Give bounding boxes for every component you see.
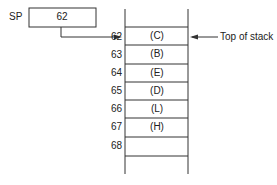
addr-68: 68 <box>98 140 122 152</box>
addr-62: 62 <box>98 31 122 43</box>
addr-66: 66 <box>98 103 122 115</box>
stack-diagram: SP 62 62 63 64 65 66 67 68 (C) (B) (E) (… <box>0 0 277 185</box>
cell-64: (E) <box>126 67 188 79</box>
addr-63: 63 <box>98 49 122 61</box>
cell-67: (H) <box>126 121 188 133</box>
addr-64: 64 <box>98 67 122 79</box>
cell-65: (D) <box>126 85 188 97</box>
sp-label: SP <box>9 11 22 23</box>
cell-63: (B) <box>126 48 188 60</box>
addr-67: 67 <box>98 121 122 133</box>
sp-value: 62 <box>31 11 93 23</box>
addr-65: 65 <box>98 85 122 97</box>
cell-62: (C) <box>126 30 188 42</box>
cell-66: (L) <box>126 103 188 115</box>
top-of-stack-label: Top of stack <box>220 31 273 43</box>
